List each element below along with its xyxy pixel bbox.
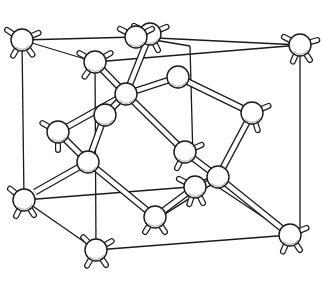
atom-corner-bottom-front-right — [279, 224, 307, 252]
atom-face-left — [42, 121, 69, 150]
atom-interior-4 — [207, 166, 229, 188]
diamond-crystal-structure-diagram — [0, 0, 323, 284]
bond — [178, 77, 252, 113]
atom-corner-top-back-left — [7, 29, 39, 56]
cube-edge-line — [95, 45, 300, 62]
bond — [218, 177, 290, 235]
atom-interior-1 — [115, 83, 137, 105]
cube-edge-line — [96, 235, 290, 250]
bond — [88, 162, 155, 217]
atom-corner-bottom-front-left — [83, 237, 111, 265]
atom-corner-bottom-back-left — [10, 189, 35, 216]
bond — [126, 94, 185, 152]
cube-edge-line — [22, 40, 24, 200]
atomic-bonds — [35, 34, 290, 235]
atoms — [7, 23, 317, 266]
atom-interior-3 — [77, 151, 99, 173]
atom-face-bottom — [144, 206, 166, 232]
atom-interior-2 — [94, 104, 116, 126]
atom-face-back — [167, 66, 189, 88]
cube-edge-line — [22, 37, 136, 40]
